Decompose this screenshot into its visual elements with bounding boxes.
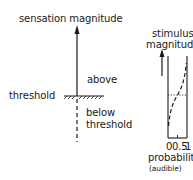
magnitude-label: magnitude bbox=[146, 40, 193, 50]
psychometric-curve bbox=[169, 63, 187, 126]
tick-label-1: 1 bbox=[185, 142, 191, 152]
sensation-arrow-head bbox=[75, 25, 80, 34]
below-label: below bbox=[86, 108, 115, 118]
threshold-hatched-line bbox=[64, 96, 104, 99]
stimulus-arrow-head bbox=[160, 49, 165, 57]
below-threshold-label: threshold bbox=[86, 120, 132, 130]
threshold-label: threshold bbox=[9, 91, 55, 101]
stimulus-label: stimulus bbox=[152, 29, 193, 39]
probability-label: probability bbox=[148, 153, 193, 163]
audible-label: (audible) bbox=[149, 165, 182, 173]
above-label: above bbox=[87, 75, 117, 85]
sensation-magnitude-label: sensation magnitude bbox=[19, 14, 123, 24]
